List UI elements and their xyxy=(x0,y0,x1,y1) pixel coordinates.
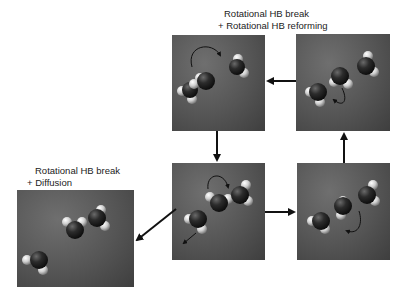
water-molecules-bottom-right xyxy=(297,163,390,260)
top-label-line-1: Rotational HB break xyxy=(218,8,328,20)
water-molecules-top-right xyxy=(296,34,390,131)
water-molecule-3 xyxy=(358,180,380,206)
left-label-line-1: Rotational HB break xyxy=(27,165,120,177)
water-molecule-2 xyxy=(205,192,233,212)
left-label-line-2: + Diffusion xyxy=(27,177,120,189)
water-molecule-3 xyxy=(229,54,249,78)
water-molecules-bottom-center xyxy=(172,163,265,260)
top-label: Rotational HB break + Rotational HB refo… xyxy=(218,8,328,32)
panel-bottom-center xyxy=(172,163,265,260)
water-molecule-2 xyxy=(329,67,353,89)
water-molecule-2 xyxy=(62,217,87,239)
panel-top-right xyxy=(296,34,390,131)
water-molecule-1 xyxy=(307,212,330,234)
water-molecule-1 xyxy=(305,83,327,107)
water-molecule-3 xyxy=(357,51,379,77)
panel-bottom-right xyxy=(297,163,390,260)
left-label: Rotational HB break + Diffusion xyxy=(27,165,120,189)
water-molecule-1 xyxy=(22,251,48,275)
water-molecule-3 xyxy=(231,180,253,206)
panel-left xyxy=(17,190,134,287)
arrow-bottom-center-to-left xyxy=(137,209,176,240)
water-molecule-1 xyxy=(184,210,207,234)
panel-top-center xyxy=(172,35,265,131)
water-molecule-2 xyxy=(189,72,215,90)
top-label-line-2: + Rotational HB reforming xyxy=(218,20,328,32)
water-molecule-2 xyxy=(334,196,352,220)
water-molecules-left xyxy=(17,190,134,287)
water-molecule-3 xyxy=(88,205,110,231)
water-molecules-top-center xyxy=(172,35,265,131)
